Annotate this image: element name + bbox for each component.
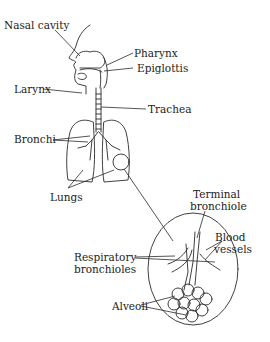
trachea xyxy=(96,88,101,132)
label-alveoli: Alveoli xyxy=(112,300,148,312)
label-blood-vessels-line1: Blood xyxy=(215,231,245,243)
label-respiratory-bronchioles-line1: Respiratory xyxy=(74,251,136,263)
label-respiratory-bronchioles-line2: bronchioles xyxy=(74,263,136,275)
label-bronchi: Bronchi xyxy=(14,133,56,145)
head-outline xyxy=(69,25,107,94)
label-terminal-bronchiole-line2: bronchiole xyxy=(190,200,247,212)
label-pharynx: Pharynx xyxy=(134,47,178,59)
label-epiglottis: Epiglottis xyxy=(137,62,188,74)
label-terminal-bronchiole-line1: Terminal xyxy=(193,188,240,200)
label-larynx: Larynx xyxy=(14,83,51,95)
label-nasal-cavity: Nasal cavity xyxy=(4,19,69,31)
label-trachea: Trachea xyxy=(148,103,191,115)
label-blood-vessels-line2: vessels xyxy=(214,243,252,255)
respiratory-system-diagram: Nasal cavity Pharynx Epiglottis Larynx T… xyxy=(0,0,270,342)
alveoli-magnification xyxy=(148,213,238,325)
label-lungs: Lungs xyxy=(50,191,83,203)
